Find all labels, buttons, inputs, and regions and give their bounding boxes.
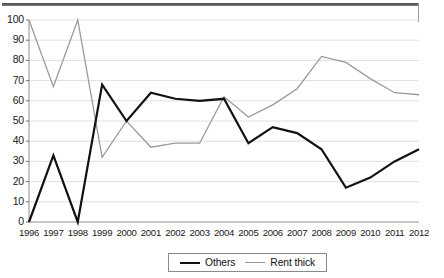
legend-item-rent-thick[interactable]: Rent thick bbox=[245, 257, 315, 268]
y-axis-label: 60 bbox=[0, 94, 24, 106]
line-chart-svg bbox=[0, 0, 444, 240]
y-axis-label: 30 bbox=[0, 154, 24, 166]
y-axis-label: 50 bbox=[0, 114, 24, 126]
chart-legend: Others Rent thick bbox=[168, 253, 327, 272]
y-axis-label: 100 bbox=[0, 13, 24, 25]
line-swatch-gray-icon bbox=[245, 262, 265, 263]
legend-item-others[interactable]: Others bbox=[180, 257, 235, 268]
line-swatch-black-icon bbox=[180, 262, 200, 264]
x-axis-label: 2012 bbox=[404, 227, 434, 238]
legend-label-rent-thick: Rent thick bbox=[270, 257, 315, 268]
y-axis-label: 10 bbox=[0, 195, 24, 207]
series-line-others bbox=[29, 85, 419, 222]
series-line-rent-thick bbox=[29, 20, 419, 157]
y-axis-label: 90 bbox=[0, 33, 24, 45]
gridlines bbox=[29, 20, 419, 222]
y-axis-label: 0 bbox=[0, 215, 24, 227]
axis-lines bbox=[26, 20, 29, 222]
y-axis-label: 70 bbox=[0, 74, 24, 86]
chart-container: 0102030405060708090100 19961997199819992… bbox=[0, 0, 444, 278]
y-axis-label: 20 bbox=[0, 175, 24, 187]
plot-area bbox=[0, 0, 444, 240]
y-axis-label: 40 bbox=[0, 134, 24, 146]
y-axis-label: 80 bbox=[0, 53, 24, 65]
legend-label-others: Others bbox=[205, 257, 235, 268]
